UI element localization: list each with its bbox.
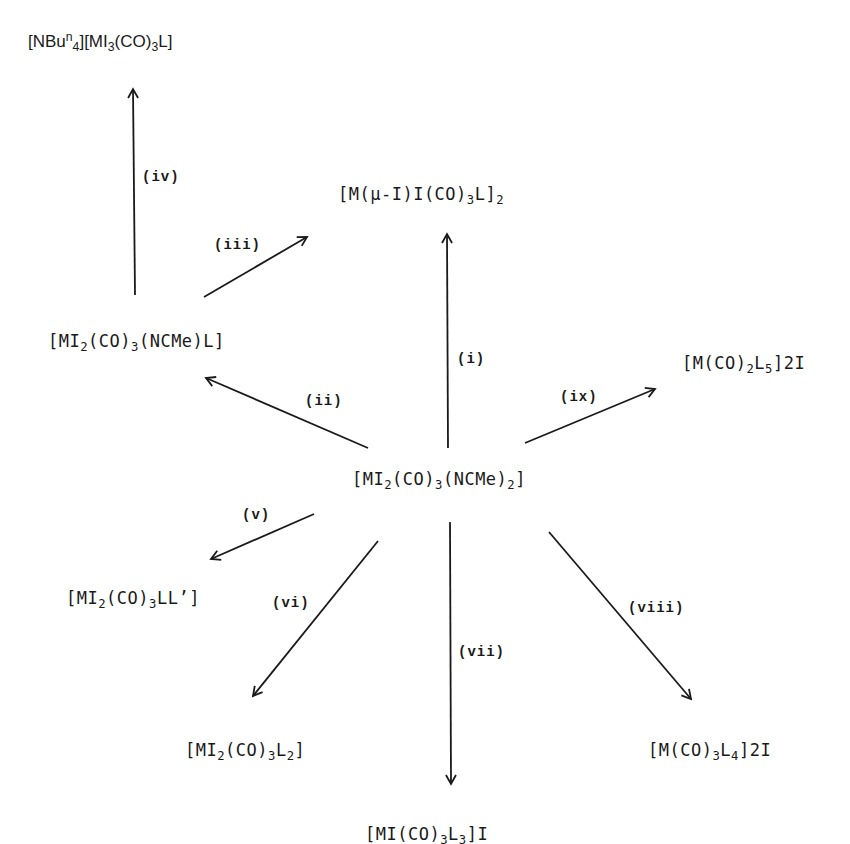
arrow-vi (253, 541, 378, 696)
formula-part: [M(CO) (682, 353, 746, 373)
compound-tris-l: [MI(CO)3L3]I (365, 826, 488, 843)
formula-part: [M(CO) (648, 740, 712, 760)
formula-part: (NCMe)L] (139, 331, 225, 351)
arrow-i (447, 234, 448, 448)
formula-sub: 2 (98, 597, 106, 611)
formula-sub: 5 (765, 362, 773, 376)
formula-part: ]I (467, 824, 488, 844)
formula-sub: 3 (108, 40, 115, 54)
formula-sub: 3 (435, 478, 443, 492)
formula-sup: n (66, 30, 73, 44)
formula-part: (CO) (106, 588, 149, 608)
formula-part: L (276, 740, 287, 760)
formula-part: LL’] (157, 588, 200, 608)
step-label-vii: (vii) (458, 645, 505, 659)
step-label-vi: (vi) (272, 596, 310, 610)
formula-sub: 2 (287, 749, 295, 763)
formula-part: [NBu (28, 32, 66, 51)
arrow-ii (206, 378, 368, 448)
formula-part: ]2I (773, 353, 805, 373)
compound-start: [MI2(CO)3(NCMe)2] (352, 471, 526, 488)
formula-part: L (754, 353, 765, 373)
compound-mono-nitrile: [MI2(CO)3(NCMe)L] (48, 333, 225, 350)
formula-part: L] (475, 184, 496, 204)
formula-sub: 2 (80, 340, 88, 354)
formula-part: L] (158, 32, 172, 51)
formula-part: L (720, 740, 731, 760)
formula-part: [MI (352, 469, 384, 489)
step-label-viii: (viii) (628, 601, 684, 615)
formula-part: ][MI (79, 32, 107, 51)
compound-tetra-l: [M(CO)3L4]2I (648, 742, 771, 759)
formula-part: [M(μ-I)I(CO) (338, 184, 467, 204)
compound-mixed-llprime: [MI2(CO)3LL’] (66, 590, 200, 607)
formula-sub: 3 (467, 193, 475, 207)
compound-bis-l: [MI2(CO)3L2] (185, 742, 305, 759)
formula-part: ]2I (739, 740, 771, 760)
reaction-arrows (0, 0, 850, 844)
formula-sub: 3 (440, 833, 448, 844)
formula-part: [MI (185, 740, 217, 760)
formula-part: (NCMe) (443, 469, 507, 489)
formula-part: [MI (48, 331, 80, 351)
step-label-iv: (iv) (142, 170, 180, 184)
formula-part: (CO) (225, 740, 268, 760)
formula-sub: 3 (268, 749, 276, 763)
formula-sub: 3 (459, 833, 467, 844)
compound-dimer: [M(μ-I)I(CO)3L]2 (338, 186, 504, 203)
step-label-ix: (ix) (560, 390, 598, 404)
step-label-iii: (iii) (214, 238, 261, 252)
formula-sub: 2 (384, 478, 392, 492)
arrow-iv (133, 89, 135, 295)
formula-sub: 3 (149, 597, 157, 611)
step-label-v: (v) (242, 508, 270, 522)
formula-part: (CO) (88, 331, 131, 351)
formula-sub: 3 (131, 340, 139, 354)
compound-dicarbonyl-l5: [M(CO)2L5]2I (682, 355, 805, 372)
formula-sub: 2 (496, 193, 504, 207)
formula-part: (CO) (115, 32, 152, 51)
compound-nbu4-salt: [NBun4][MI3(CO)3L] (28, 33, 172, 50)
formula-part: [MI(CO) (365, 824, 440, 844)
formula-part: L (448, 824, 459, 844)
formula-part: ] (515, 469, 526, 489)
step-label-ii: (ii) (305, 394, 343, 408)
formula-part: (CO) (392, 469, 435, 489)
arrow-vii (450, 522, 451, 784)
formula-part: [MI (66, 588, 98, 608)
formula-part: ] (295, 740, 306, 760)
step-label-i: (i) (457, 352, 485, 366)
formula-sub: 2 (217, 749, 225, 763)
formula-sub: 4 (731, 749, 739, 763)
